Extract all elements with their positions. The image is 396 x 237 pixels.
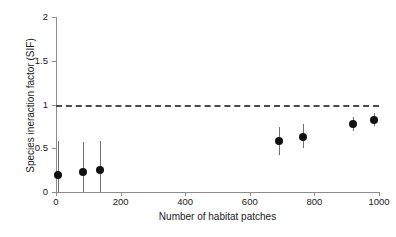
- x-tick-label: 1000: [359, 196, 396, 207]
- chart-figure: 00.511.52 02004006008001000 Species iner…: [0, 0, 396, 237]
- x-tick-label: 200: [101, 196, 141, 207]
- y-axis-title: Species ineraction factor (SIF): [25, 11, 36, 201]
- error-bar: [58, 141, 59, 192]
- x-tick-label: 0: [36, 196, 76, 207]
- y-axis-title-wrapper: Species ineraction factor (SIF): [0, 0, 22, 237]
- x-tick-label: 400: [165, 196, 205, 207]
- x-tick-label: 800: [294, 196, 334, 207]
- data-point: [299, 133, 307, 141]
- data-point: [349, 120, 357, 128]
- x-axis-tick-labels: 02004006008001000: [0, 0, 396, 237]
- x-tick-label: 600: [230, 196, 270, 207]
- data-point: [54, 171, 62, 179]
- x-axis-title: Number of habitat patches: [56, 211, 379, 222]
